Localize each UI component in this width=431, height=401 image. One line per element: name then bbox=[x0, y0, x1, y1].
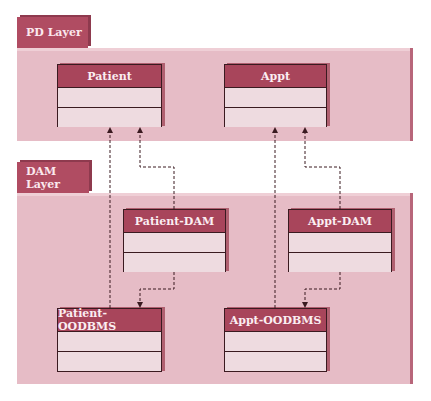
pd-layer-label: PD Layer bbox=[26, 26, 82, 39]
methods-compartment bbox=[58, 352, 161, 371]
class-name: Appt-DAM bbox=[289, 210, 391, 233]
class-patient-dam[interactable]: Patient-DAM bbox=[123, 209, 226, 272]
methods-compartment bbox=[289, 253, 391, 272]
class-name: Patient-OODBMS bbox=[58, 309, 161, 332]
attributes-compartment bbox=[289, 233, 391, 253]
class-name: Patient-DAM bbox=[124, 210, 225, 233]
methods-compartment bbox=[124, 253, 225, 272]
class-patient[interactable]: Patient bbox=[57, 64, 162, 127]
methods-compartment bbox=[58, 108, 161, 127]
methods-compartment bbox=[225, 108, 326, 127]
dam-layer-tab: DAM Layer bbox=[17, 162, 89, 193]
class-name: Appt bbox=[225, 65, 326, 88]
class-patient-oodbms[interactable]: Patient-OODBMS bbox=[57, 308, 162, 372]
class-name: Appt-OODBMS bbox=[225, 309, 326, 332]
class-appt-oodbms[interactable]: Appt-OODBMS bbox=[224, 308, 327, 372]
attributes-compartment bbox=[58, 88, 161, 108]
attributes-compartment bbox=[225, 88, 326, 108]
pd-layer-tab: PD Layer bbox=[17, 17, 88, 48]
attributes-compartment bbox=[58, 332, 161, 352]
attributes-compartment bbox=[225, 332, 326, 352]
dam-layer-label: DAM Layer bbox=[26, 165, 89, 191]
class-appt-dam[interactable]: Appt-DAM bbox=[288, 209, 392, 272]
class-name: Patient bbox=[58, 65, 161, 88]
attributes-compartment bbox=[124, 233, 225, 253]
class-appt[interactable]: Appt bbox=[224, 64, 327, 127]
methods-compartment bbox=[225, 352, 326, 371]
